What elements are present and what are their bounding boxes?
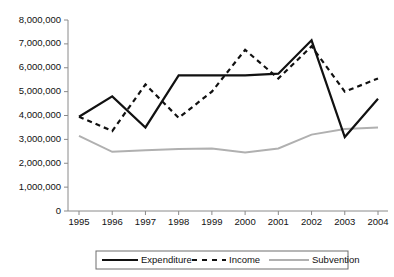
chart-legend: ExpenditureIncomeSubvention bbox=[96, 251, 360, 269]
line-chart-figure: 01,000,0002,000,0003,000,0004,000,0005,0… bbox=[0, 0, 394, 277]
series-line-expenditure bbox=[79, 40, 378, 137]
series-line-subvention bbox=[79, 127, 378, 152]
x-tick-label: 2003 bbox=[334, 216, 355, 227]
x-tick-label: 1998 bbox=[168, 216, 189, 227]
y-tick-label: 1,000,000 bbox=[19, 181, 61, 192]
x-axis-ticks: 1995199619971998199920002001200220032004 bbox=[68, 211, 388, 227]
series-line-income bbox=[79, 46, 378, 131]
x-tick-label: 2004 bbox=[367, 216, 388, 227]
x-tick-label: 1999 bbox=[201, 216, 222, 227]
year-value-axis: 01,000,0002,000,0003,000,0004,000,0005,0… bbox=[19, 14, 68, 216]
legend-label-expenditure: Expenditure bbox=[141, 254, 192, 265]
x-tick-label: 1995 bbox=[68, 216, 89, 227]
legend-label-subvention: Subvention bbox=[312, 254, 360, 265]
y-tick-label: 0 bbox=[56, 205, 61, 216]
y-tick-label: 8,000,000 bbox=[19, 14, 61, 25]
legend-label-income: Income bbox=[229, 254, 260, 265]
y-tick-label: 5,000,000 bbox=[19, 85, 61, 96]
x-tick-label: 1996 bbox=[102, 216, 123, 227]
data-series-group bbox=[79, 40, 378, 152]
y-tick-label: 4,000,000 bbox=[19, 109, 61, 120]
y-tick-label: 6,000,000 bbox=[19, 61, 61, 72]
x-tick-label: 2002 bbox=[301, 216, 322, 227]
y-tick-label: 2,000,000 bbox=[19, 157, 61, 168]
x-tick-label: 1997 bbox=[135, 216, 156, 227]
x-tick-label: 2000 bbox=[235, 216, 256, 227]
y-tick-label: 3,000,000 bbox=[19, 133, 61, 144]
x-tick-label: 2001 bbox=[268, 216, 289, 227]
chart-canvas: 01,000,0002,000,0003,000,0004,000,0005,0… bbox=[0, 0, 394, 277]
y-tick-label: 7,000,000 bbox=[19, 37, 61, 48]
